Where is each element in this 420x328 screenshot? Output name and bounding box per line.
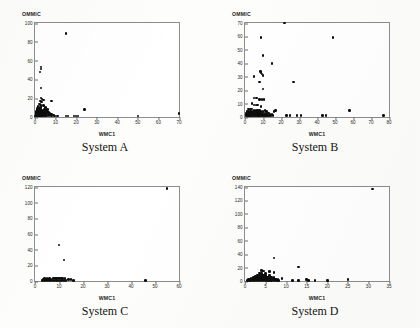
x-axis-tick: 0 [244, 117, 247, 125]
x-axis-tick: 15 [304, 281, 309, 289]
panel-caption: System A [0, 140, 210, 155]
data-point [297, 279, 300, 282]
plot-area-system-c: 0204060801001200102030405060 [34, 186, 180, 282]
data-point [258, 81, 261, 84]
data-point [348, 109, 351, 112]
x-axis-tick: 50 [152, 281, 157, 289]
data-point [277, 279, 280, 282]
y-axis-tick: 60 [27, 232, 35, 237]
data-point [297, 266, 300, 269]
y-axis-tick: 70 [237, 21, 245, 26]
panel-system-c: OMMIC 0204060801001200102030405060 WMC1 … [0, 164, 210, 328]
x-axis-label: WMC1 [34, 295, 180, 301]
x-axis-tick: 30 [296, 117, 301, 125]
x-axis-tick: 70 [176, 117, 181, 125]
y-axis-tick: 20 [27, 96, 35, 101]
y-axis-tick: 20 [237, 88, 245, 93]
data-point [67, 115, 70, 118]
data-point [56, 115, 59, 118]
data-point [289, 114, 292, 117]
x-axis-tick: 40 [128, 281, 133, 289]
data-point [262, 54, 265, 57]
x-axis-tick: 30 [104, 281, 109, 289]
y-axis-tick: 40 [27, 77, 35, 82]
x-axis-tick: 10 [284, 281, 289, 289]
y-axis-tick: 60 [27, 58, 35, 63]
panel-caption: System B [210, 140, 420, 155]
data-point [253, 75, 256, 78]
data-point [325, 114, 328, 117]
data-point [273, 257, 276, 260]
x-axis-label: WMC1 [244, 131, 390, 137]
data-point [77, 115, 80, 118]
data-point [263, 98, 266, 101]
figure-scatter-panels: OMMIC 020406080100010203040506070 WMC1 S… [0, 0, 420, 328]
data-point [260, 105, 263, 108]
y-axis-label: OMMIC [232, 11, 251, 17]
plot-area-system-b: 01020304050607001020304050607080 [244, 22, 390, 118]
data-point [262, 74, 265, 77]
y-axis-label: OMMIC [22, 11, 41, 17]
data-point [58, 244, 61, 247]
data-point [144, 279, 147, 282]
y-axis-tick: 80 [237, 225, 245, 230]
data-point [40, 68, 43, 71]
data-point [314, 279, 317, 282]
panel-caption: System C [0, 304, 210, 319]
x-axis-tick: 10 [53, 117, 58, 125]
data-point [326, 279, 329, 282]
x-axis-tick: 20 [74, 117, 79, 125]
x-axis-tick: 0 [34, 281, 37, 289]
y-axis-tick: 120 [25, 185, 35, 190]
x-axis-tick: 60 [176, 281, 181, 289]
y-axis-tick: 60 [237, 34, 245, 39]
x-axis-tick: 10 [56, 281, 61, 289]
y-axis-tick: 50 [237, 47, 245, 52]
y-axis-tick: 80 [27, 39, 35, 44]
x-axis-tick: 5 [264, 281, 267, 289]
x-axis-tick: 60 [350, 117, 355, 125]
data-point [83, 108, 86, 111]
y-axis-tick: 20 [27, 263, 35, 268]
x-axis-tick: 40 [115, 117, 120, 125]
data-point [166, 187, 169, 190]
x-axis-tick: 80 [386, 117, 391, 125]
data-point [347, 278, 350, 281]
data-point [300, 114, 303, 117]
data-point [178, 112, 181, 115]
data-point [382, 114, 385, 117]
x-axis-tick: 35 [386, 281, 391, 289]
x-axis-tick: 60 [156, 117, 161, 125]
x-axis-tick: 20 [278, 117, 283, 125]
panel-system-b: OMMIC 01020304050607001020304050607080 W… [210, 0, 420, 164]
data-point [272, 114, 275, 117]
data-point [271, 62, 274, 65]
y-axis-tick: 140 [235, 185, 245, 190]
data-point [273, 271, 276, 274]
data-point [321, 114, 324, 117]
data-point [72, 279, 75, 282]
x-axis-tick: 50 [135, 117, 140, 125]
data-point [285, 114, 288, 117]
panel-system-d: OMMIC 02040608010012014005101520253035 W… [210, 164, 420, 328]
y-axis-tick: 120 [235, 198, 245, 203]
x-axis-tick: 40 [314, 117, 319, 125]
y-axis-tick: 80 [27, 216, 35, 221]
y-axis-tick: 100 [25, 200, 35, 205]
data-point [268, 270, 271, 273]
x-axis-tick: 20 [325, 281, 330, 289]
y-axis-tick: 40 [27, 247, 35, 252]
y-axis-tick: 20 [237, 265, 245, 270]
data-point [50, 100, 53, 103]
y-axis-tick: 30 [237, 74, 245, 79]
data-point [39, 71, 42, 74]
x-axis-tick: 20 [80, 281, 85, 289]
x-axis-tick: 70 [368, 117, 373, 125]
y-axis-tick: 60 [237, 238, 245, 243]
data-point [63, 259, 66, 262]
data-point [40, 87, 43, 90]
data-point [291, 279, 294, 282]
y-axis-tick: 10 [237, 101, 245, 106]
data-point [283, 22, 286, 25]
y-axis-tick: 40 [237, 252, 245, 257]
